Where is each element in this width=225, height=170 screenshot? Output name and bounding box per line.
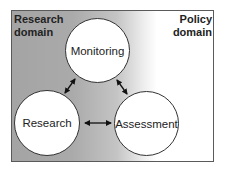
monitoring-node: Monitoring <box>65 18 130 83</box>
research-label: Research <box>22 117 71 129</box>
arrow-monitoring-research <box>65 79 75 93</box>
assessment-node: Assessment <box>114 91 179 156</box>
assessment-label: Assessment <box>115 118 178 130</box>
monitoring-label: Monitoring <box>71 45 125 57</box>
arrow-monitoring-assessment <box>117 80 127 94</box>
research-node: Research <box>14 90 80 156</box>
